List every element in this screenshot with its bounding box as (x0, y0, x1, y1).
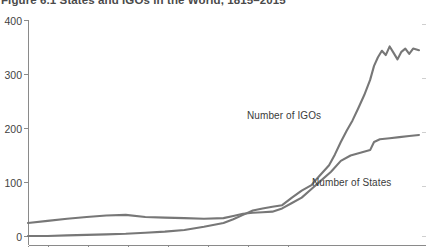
series-annotation-states: Number of States (312, 177, 391, 188)
y-tick-label-100: 100 (0, 177, 22, 189)
series-annotation-igos: Number of IGOs (247, 110, 321, 121)
y-tick-label-0: 0 (0, 231, 22, 243)
y-tick-label-400: 400 (0, 15, 22, 27)
y-tick-label-200: 200 (0, 123, 22, 135)
right-edge-marks (422, 25, 426, 237)
series-line-igos (28, 46, 419, 236)
y-axis-ticks (24, 21, 29, 237)
chart-plot-area (0, 0, 427, 247)
y-tick-label-300: 300 (0, 69, 22, 81)
figure-container: Figure 6.1 States and IGOs in the World,… (0, 0, 427, 247)
